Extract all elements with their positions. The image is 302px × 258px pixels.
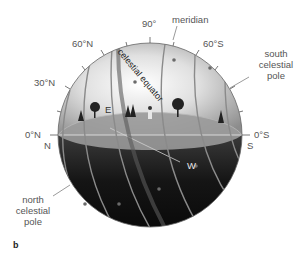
label-north: N [44,140,51,151]
label-south: S [247,140,253,151]
figure-letter: b [13,240,19,250]
label-0N: 0°N [25,129,41,140]
label-30N: 30°N [34,77,55,88]
label-north-celestial-pole: north celestial pole [10,194,56,227]
label-0S: 0°S [254,129,269,140]
south-pole-leader [230,77,249,88]
label-east: E [105,104,111,115]
label-meridian: meridian [172,14,208,25]
observer-icon [148,106,152,119]
meridian-leader [173,26,177,40]
label-60S: 60°S [203,38,224,49]
label-90: 90° [142,18,156,29]
label-south-celestial-pole: south celestial pole [253,48,299,81]
label-60N: 60°N [72,38,93,49]
label-west: W [187,160,196,171]
